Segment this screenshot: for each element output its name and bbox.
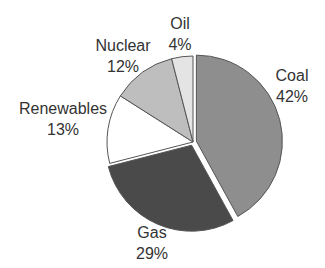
label-coal-name: Coal: [276, 65, 309, 86]
label-oil-name: Oil: [168, 13, 191, 34]
label-oil: Oil 4%: [168, 13, 191, 55]
label-nuclear-pct: 12%: [95, 56, 150, 77]
label-renewables-name: Renewables: [19, 98, 107, 119]
label-oil-pct: 4%: [168, 34, 191, 55]
label-nuclear: Nuclear 12%: [95, 35, 150, 77]
label-coal-pct: 42%: [276, 86, 309, 107]
label-gas-name: Gas: [136, 222, 168, 243]
label-renewables: Renewables 13%: [19, 98, 107, 140]
label-nuclear-name: Nuclear: [95, 35, 150, 56]
label-renewables-pct: 13%: [19, 119, 107, 140]
label-coal: Coal 42%: [276, 65, 309, 107]
label-gas-pct: 29%: [136, 243, 168, 264]
label-gas: Gas 29%: [136, 222, 168, 264]
